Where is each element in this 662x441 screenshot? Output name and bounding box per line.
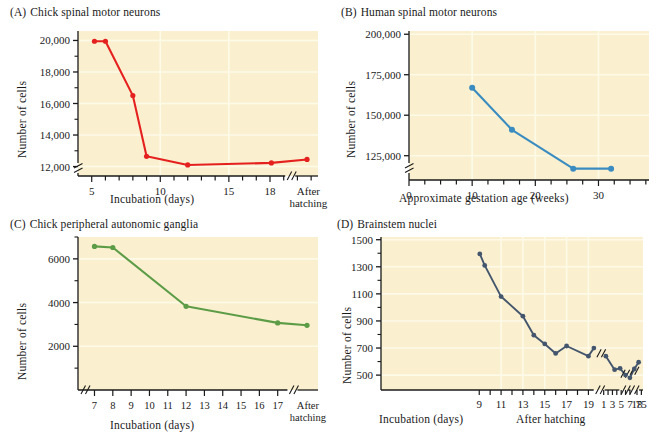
panel-b-plot: 125,000150,000175,000200,0000102030	[331, 0, 662, 212]
x-tick-label: 12	[181, 400, 192, 411]
x-tick-label-after: After	[297, 185, 321, 197]
x-tick-label: 10	[144, 400, 155, 411]
figure-neuronal-cell-death: (A)Chick spinal motor neurons Number of …	[0, 0, 662, 441]
data-point	[591, 346, 596, 351]
data-point	[477, 252, 482, 257]
x-tick-label: 75	[636, 398, 648, 410]
x-tick-label: 9	[129, 400, 134, 411]
data-point	[531, 333, 536, 338]
panel-d-brainstem-nuclei: (D)Brainstem nuclei Number of cells Incu…	[331, 212, 662, 441]
x-tick-label: 15	[236, 400, 247, 411]
data-point	[185, 162, 190, 167]
y-tick-label: 20,000	[40, 34, 71, 46]
data-point	[612, 367, 617, 372]
x-tick-label: 19	[583, 398, 595, 410]
data-point	[275, 320, 280, 325]
y-tick-label: 4000	[48, 297, 71, 309]
y-tick-label: 125,000	[365, 150, 401, 162]
plot-background	[78, 237, 318, 390]
y-tick-label: 200,000	[365, 28, 401, 40]
x-tick-label: 11	[163, 400, 173, 411]
x-tick-label: 5	[89, 185, 95, 197]
data-point	[628, 375, 633, 380]
data-point	[570, 166, 576, 172]
data-point	[144, 154, 149, 159]
panel-c-plot: 2000400060007891011121314151617Afterhatc…	[0, 212, 331, 441]
data-point	[542, 342, 547, 347]
x-tick-label: 10	[467, 189, 479, 201]
x-tick-label: 5	[618, 398, 624, 410]
y-tick-label: 150,000	[365, 109, 401, 121]
data-point	[469, 85, 475, 91]
x-tick-label: 14	[217, 400, 228, 411]
y-tick-label: 175,000	[365, 69, 401, 81]
x-tick-label: 20	[530, 189, 542, 201]
x-tick-label: 18	[265, 185, 277, 197]
y-tick-label: 1100	[351, 288, 373, 300]
data-point	[509, 127, 515, 133]
data-point	[482, 263, 487, 268]
y-tick-label: 16,000	[40, 98, 71, 110]
x-tick-label: 0	[406, 189, 412, 201]
panel-a-chick-spinal-motor-neurons: (A)Chick spinal motor neurons Number of …	[0, 0, 331, 212]
x-tick-label: 11	[496, 398, 507, 410]
y-tick-label: 12,000	[40, 161, 71, 173]
data-point	[618, 366, 623, 371]
panel-d-plot: 5007009001100130015009111315171913571875	[331, 212, 662, 441]
data-point	[130, 93, 135, 98]
data-point	[521, 314, 526, 319]
data-point	[608, 166, 614, 172]
y-tick-label: 6000	[48, 253, 71, 265]
x-tick-label-hatching: hatching	[290, 412, 327, 423]
y-tick-label: 1300	[351, 261, 374, 273]
x-tick-label: 13	[517, 398, 529, 410]
data-point	[269, 160, 274, 165]
data-point	[499, 294, 504, 299]
data-point	[110, 245, 115, 250]
x-tick-label: 16	[254, 400, 265, 411]
y-tick-label: 1500	[351, 234, 374, 246]
x-tick-label: 17	[272, 400, 283, 411]
plot-background	[409, 31, 649, 180]
data-point	[304, 157, 309, 162]
y-tick-label: 18,000	[40, 66, 71, 78]
x-tick-label-hatching: hatching	[289, 197, 327, 209]
x-tick-label: 30	[593, 189, 605, 201]
data-point	[92, 244, 97, 249]
data-point	[103, 39, 108, 44]
x-tick-label: 13	[199, 400, 210, 411]
panel-a-plot: 12,00014,00016,00018,00020,0005101518Aft…	[0, 0, 331, 212]
data-point	[92, 39, 97, 44]
data-point	[623, 373, 628, 378]
x-tick-label-after: After	[297, 400, 320, 411]
data-point	[304, 323, 309, 328]
y-tick-label: 500	[357, 369, 374, 381]
x-tick-label: 10	[155, 185, 167, 197]
x-tick-label: 8	[110, 400, 115, 411]
data-point	[586, 354, 591, 359]
y-tick-label: 900	[357, 315, 374, 327]
data-point	[603, 354, 608, 359]
y-tick-label: 700	[357, 342, 374, 354]
data-point	[636, 360, 641, 365]
y-tick-label: 14,000	[40, 129, 71, 141]
plot-background	[381, 237, 643, 390]
y-tick-label: 2000	[48, 340, 71, 352]
x-tick-label: 17	[561, 398, 573, 410]
x-tick-label: 15	[223, 185, 235, 197]
data-point	[183, 304, 188, 309]
x-tick-label: 7	[92, 400, 97, 411]
x-tick-label: 15	[539, 398, 551, 410]
x-tick-label: 3	[610, 398, 616, 410]
data-point	[632, 367, 637, 372]
data-point	[564, 344, 569, 349]
x-tick-label: 9	[477, 398, 483, 410]
panel-c-chick-peripheral-autonomic-ganglia: (C)Chick peripheral autonomic ganglia Nu…	[0, 212, 331, 441]
panel-b-human-spinal-motor-neurons: (B)Human spinal motor neurons Number of …	[331, 0, 662, 212]
data-point	[553, 351, 558, 356]
x-tick-label: 1	[601, 398, 607, 410]
